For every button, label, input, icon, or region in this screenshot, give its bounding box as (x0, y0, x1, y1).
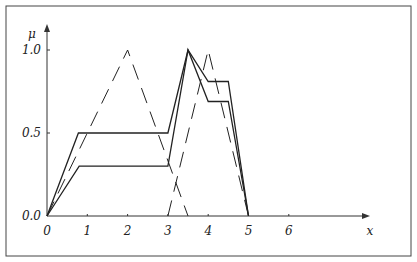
x-axis-arrow-icon (362, 213, 370, 219)
series-line-0 (47, 50, 249, 216)
frame-border (6, 6, 411, 256)
y-axis-arrow-icon (44, 24, 50, 32)
x-tick-label: 1 (83, 224, 91, 238)
x-axis-label: x (367, 224, 374, 238)
chart-frame: 0123456x0.00.51.0μ (0, 0, 417, 262)
x-tick-label: 2 (123, 224, 132, 238)
series-group (47, 50, 249, 216)
y-axis-label: μ (28, 27, 36, 41)
y-tick-label: 0.0 (22, 209, 41, 223)
x-tick-label: 4 (203, 224, 212, 238)
x-tick-label: 6 (285, 224, 293, 238)
y-tick-label: 0.5 (22, 126, 41, 140)
x-tick-label: 5 (245, 224, 253, 238)
chart-svg: 0123456x0.00.51.0μ (0, 0, 417, 262)
x-tick-label: 0 (43, 224, 51, 238)
axes: 0123456x0.00.51.0μ (22, 24, 374, 238)
x-tick-label: 3 (164, 224, 172, 238)
y-tick-label: 1.0 (22, 43, 41, 57)
